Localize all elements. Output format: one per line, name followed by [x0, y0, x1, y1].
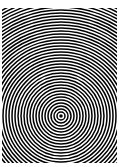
rings-graphic	[2, 8, 117, 163]
concentric-circles-image	[2, 8, 117, 163]
